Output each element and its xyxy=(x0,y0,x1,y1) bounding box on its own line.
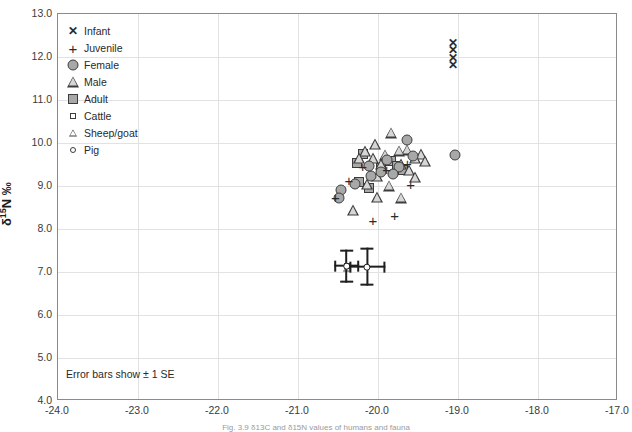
error-bar-cap xyxy=(350,261,352,272)
x-axis-tick-labels: -24.0-23.0-22.0-21.0-20.0-19.0-18.0-17.0 xyxy=(57,404,617,420)
small-open-triangle-icon xyxy=(69,129,77,136)
y-tick-label: 13.0 xyxy=(4,7,52,19)
figure-caption: Fig. 3.9 δ13C and δ15N values of humans … xyxy=(0,423,632,432)
data-point xyxy=(383,180,395,191)
triangle-inner xyxy=(371,140,379,148)
y-tick-label: 6.0 xyxy=(4,308,52,320)
legend-item-label: Female xyxy=(84,59,119,71)
x-tick-label: -24.0 xyxy=(27,404,87,416)
legend: ✕Infant+JuvenileFemaleMaleAdultCattleShe… xyxy=(62,22,182,158)
legend-item-pig: Pig xyxy=(62,141,182,158)
error-bar-cap xyxy=(361,284,374,286)
legend-item-label: Sheep/goat xyxy=(84,127,138,139)
legend-symbol: + xyxy=(62,39,84,56)
legend-symbol: ✕ xyxy=(62,22,84,39)
legend-symbol xyxy=(62,107,84,124)
legend-symbol xyxy=(62,73,84,90)
triangle-inner xyxy=(349,206,357,214)
plus-icon: + xyxy=(390,208,399,223)
open-triangle-icon xyxy=(67,76,79,87)
data-point: ✕ xyxy=(448,59,458,71)
ex-icon: ✕ xyxy=(68,25,78,37)
x-tick-label: -21.0 xyxy=(267,404,327,416)
legend-symbol xyxy=(62,141,84,158)
data-point: + xyxy=(358,158,367,173)
triangle-inner xyxy=(387,129,395,137)
legend-item-label: Juvenile xyxy=(84,42,123,54)
triangle-inner xyxy=(69,78,77,86)
data-point: + xyxy=(345,172,354,187)
legend-item-juvenile: +Juvenile xyxy=(62,39,182,56)
filled-circle-icon xyxy=(68,59,79,70)
open-triangle-icon xyxy=(419,156,431,167)
data-point xyxy=(402,134,413,145)
data-point xyxy=(385,127,397,138)
legend-item-female: Female xyxy=(62,56,182,73)
data-point xyxy=(369,139,381,150)
triangle-inner xyxy=(373,193,381,201)
data-point: + xyxy=(390,208,399,223)
small-open-circle-icon xyxy=(70,147,76,153)
error-bar-center-node xyxy=(364,263,371,270)
error-bar-cross xyxy=(350,247,385,286)
legend-item-sheep-goat: Sheep/goat xyxy=(62,124,182,141)
data-point: + xyxy=(403,155,412,170)
legend-symbol xyxy=(62,90,84,107)
legend-item-infant: ✕Infant xyxy=(62,22,182,39)
open-triangle-icon xyxy=(369,139,381,150)
error-bar-cap xyxy=(383,261,385,272)
legend-item-cattle: Cattle xyxy=(62,107,182,124)
data-point xyxy=(347,204,359,215)
y-tick-label: 7.0 xyxy=(4,265,52,277)
error-bar-cap xyxy=(334,260,336,271)
plus-icon: + xyxy=(403,155,412,170)
data-point xyxy=(419,156,431,167)
open-triangle-icon xyxy=(371,192,383,203)
data-point: + xyxy=(331,189,340,204)
open-triangle-icon xyxy=(383,180,395,191)
error-bar-cap xyxy=(361,247,374,249)
x-tick-label: -23.0 xyxy=(107,404,167,416)
legend-symbol xyxy=(62,124,84,141)
plus-icon: + xyxy=(358,158,367,173)
filled-circle-icon xyxy=(402,134,413,145)
data-point xyxy=(395,192,407,203)
legend-item-label: Pig xyxy=(84,144,99,156)
data-point xyxy=(450,149,461,160)
legend-item-label: Cattle xyxy=(84,110,111,122)
data-point xyxy=(371,192,383,203)
y-tick-label: 5.0 xyxy=(4,351,52,363)
data-point: + xyxy=(406,177,415,192)
plus-icon: + xyxy=(406,177,415,192)
open-triangle-icon xyxy=(395,192,407,203)
x-tick-label: -22.0 xyxy=(187,404,247,416)
triangle-inner xyxy=(385,182,393,190)
triangle-inner xyxy=(397,194,405,202)
legend-item-label: Male xyxy=(84,76,107,88)
x-tick-label: -17.0 xyxy=(587,404,632,416)
y-tick-label: 11.0 xyxy=(4,93,52,105)
triangle-inner xyxy=(395,147,403,155)
plus-icon: + xyxy=(369,213,378,228)
x-tick-label: -20.0 xyxy=(347,404,407,416)
filled-circle-icon xyxy=(450,149,461,160)
y-tick-label: 12.0 xyxy=(4,50,52,62)
legend-item-label: Infant xyxy=(84,25,110,37)
x-tick-label: -19.0 xyxy=(427,404,487,416)
y-axis-title: δ15N ‰ xyxy=(0,144,14,264)
y-axis-title-text: δ15N ‰ xyxy=(0,182,14,226)
small-open-square-icon xyxy=(70,113,76,119)
plus-icon: + xyxy=(69,40,78,55)
figure-container: 13.012.011.010.09.08.07.06.05.04.0 δ15N … xyxy=(0,0,632,432)
legend-item-adult: Adult xyxy=(62,90,182,107)
data-point: + xyxy=(369,213,378,228)
plus-icon: + xyxy=(331,189,340,204)
legend-symbol xyxy=(62,56,84,73)
plus-icon: + xyxy=(382,161,391,176)
filled-square-icon xyxy=(68,94,78,104)
open-triangle-icon xyxy=(347,204,359,215)
x-tick-label: -18.0 xyxy=(507,404,567,416)
triangle-inner xyxy=(363,180,371,188)
open-triangle-icon xyxy=(385,127,397,138)
ex-icon: ✕ xyxy=(448,59,458,71)
